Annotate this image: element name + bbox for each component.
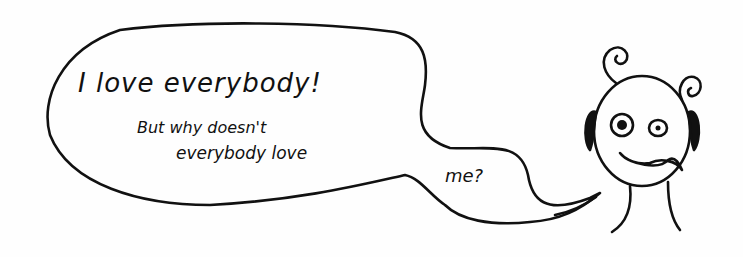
- speech-line-4: me?: [445, 165, 483, 186]
- speech-bubble-outline: [48, 23, 600, 223]
- speech-line-2: But why doesn't: [137, 118, 266, 137]
- cartoon-canvas: I love everybody! But why doesn't everyb…: [0, 0, 743, 257]
- cartoon-drawing: [0, 0, 743, 257]
- neck-left: [612, 186, 630, 232]
- left-antenna: [604, 47, 628, 83]
- mouth: [620, 153, 682, 170]
- right-antenna: [680, 77, 701, 100]
- head: [594, 76, 690, 186]
- speech-line-1: I love everybody!: [78, 68, 322, 98]
- neck-right: [668, 182, 680, 230]
- right-ear: [689, 112, 699, 150]
- speech-line-3: everybody love: [176, 143, 307, 163]
